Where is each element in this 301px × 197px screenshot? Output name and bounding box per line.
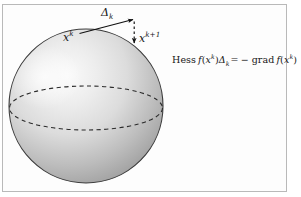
point-xk-label: xk	[63, 32, 74, 43]
riemannian-newton-figure: Δk xk xk+1 Hess f(xk)Δk=− grad f(xk)	[0, 0, 301, 197]
sphere-highlight	[14, 45, 106, 125]
sphere-group	[9, 29, 163, 183]
newton-equation: Hess f(xk)Δk=− grad f(xk)	[172, 55, 297, 65]
tangent-vector-label: Δk	[101, 7, 113, 18]
point-xk1-label: xk+1	[139, 33, 160, 44]
